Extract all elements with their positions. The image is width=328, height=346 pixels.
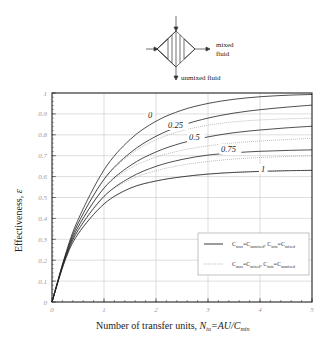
y-tick-label: 0.1	[38, 278, 47, 286]
y-tick-label: 0.2	[38, 257, 47, 265]
effectiveness-chart: mixed fluid unmixed fluid 01234500.10.20…	[0, 0, 328, 346]
y-tick-label: 0.7	[38, 152, 47, 160]
x-tick-label: 5	[310, 306, 314, 314]
x-tick-label: 2	[154, 306, 158, 314]
x-tick-label: 0	[50, 306, 54, 314]
legend-box	[198, 233, 309, 275]
y-tick-label: 0.5	[38, 194, 47, 202]
y-tick-label: 1	[44, 90, 48, 98]
dotted-curve	[52, 156, 312, 302]
mixed-fluid-label-1: mixed	[216, 41, 234, 49]
top-arrow-icon	[174, 27, 178, 31]
right-arrow-icon	[206, 47, 210, 51]
x-axis-title: Number of transfer units, Ntu=AU/Cmin	[96, 320, 249, 332]
y-tick-label: 0.4	[38, 215, 47, 223]
y-tick-label: 0.6	[38, 173, 47, 181]
curve-label: 0.5	[189, 132, 200, 142]
x-tick-label: 4	[258, 306, 262, 314]
dotted-curve	[52, 138, 312, 302]
crossflow-diagram	[146, 16, 210, 80]
curve-label: 0.75	[221, 144, 236, 154]
curve-label: 0.25	[168, 120, 183, 130]
curve-label: 1	[261, 164, 265, 174]
unmixed-fluid-label: unmixed fluid	[181, 74, 221, 82]
y-tick-label: 0.3	[38, 236, 47, 244]
down-arrow-icon	[174, 76, 178, 80]
solid-curve	[52, 150, 312, 302]
legend: Cmax=Cunmixed, Cmin=Cmixed Cmax=Cmixed, …	[198, 233, 309, 275]
y-tick-label: 0.9	[38, 110, 47, 118]
y-tick-label: 0	[44, 299, 48, 307]
solid-curve	[52, 126, 312, 302]
mixed-fluid-label-2: fluid	[216, 50, 230, 58]
left-arrow-icon	[154, 47, 158, 51]
x-tick-label: 3	[205, 306, 210, 314]
x-tick-label: 1	[102, 306, 106, 314]
y-tick-label: 0.8	[38, 131, 47, 139]
y-axis-title: Effectiveness, ε	[13, 189, 24, 252]
